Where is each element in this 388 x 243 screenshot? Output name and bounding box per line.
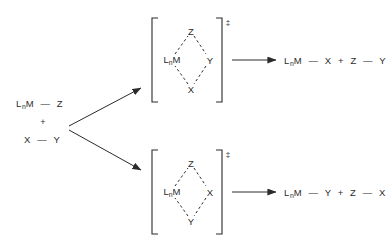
ts-lower-atom-top: Z	[188, 158, 194, 169]
reactant-bond-2: —	[37, 134, 47, 145]
bracket-right-upper	[216, 18, 222, 102]
reactant-group-y: Y	[53, 134, 60, 145]
ts-lower-atom-bottom: Y	[188, 216, 194, 227]
branch-arrow-lower	[69, 130, 141, 170]
bracket-left-lower	[152, 150, 158, 234]
reactant-group-x: X	[24, 134, 31, 145]
product-upper-metal: LnM	[284, 55, 302, 66]
reactant-group-z: Z	[57, 98, 63, 109]
dagger-symbol-lower: ‡	[226, 150, 230, 159]
product-lower-metal: LnM	[284, 187, 302, 198]
ts-lower-atom-metal: LnM	[163, 186, 180, 198]
ts-upper-atom-top: Z	[188, 26, 194, 37]
ts-upper-atom-metal: LnM	[163, 54, 180, 66]
product-lower-group-3: X	[379, 187, 386, 198]
branch-arrow-upper	[69, 88, 141, 126]
product-lower-group-1: Y	[325, 187, 332, 198]
product-lower-bond-2: —	[363, 187, 373, 198]
reactant-metal-label: LnM	[16, 98, 34, 109]
product-upper-group-1: X	[325, 55, 332, 66]
product-upper-bond-1: —	[308, 55, 318, 66]
product-upper-bond-2: —	[363, 55, 373, 66]
ts-upper-atom-right: Y	[207, 55, 213, 66]
bracket-right-lower	[216, 150, 222, 234]
bracket-left-upper	[152, 18, 158, 102]
product-lower-bond-1: —	[308, 187, 318, 198]
product-lower-group-2: Z	[350, 187, 356, 198]
reactant-bond-1: —	[40, 98, 50, 109]
product-upper: LnM — X + Z — Y	[284, 55, 386, 67]
dagger-symbol-upper: ‡	[226, 18, 230, 27]
ts-upper-atom-bottom: X	[188, 84, 194, 95]
product-lower: LnM — Y + Z — X	[284, 187, 386, 199]
reaction-scheme-diagram: LnM — Z + X — Y ‡ Z LnM Y X LnM — X + Z …	[0, 0, 388, 243]
product-upper-plus: +	[338, 55, 344, 66]
product-upper-group-3: Y	[379, 55, 386, 66]
product-lower-plus: +	[338, 187, 344, 198]
reactant-line-x-y: X — Y	[24, 134, 60, 145]
reactant-line-metal-z: LnM — Z	[16, 98, 63, 110]
product-upper-group-2: Z	[350, 55, 356, 66]
ts-lower-atom-right: X	[207, 187, 213, 198]
reactant-plus-sign: +	[40, 117, 45, 127]
